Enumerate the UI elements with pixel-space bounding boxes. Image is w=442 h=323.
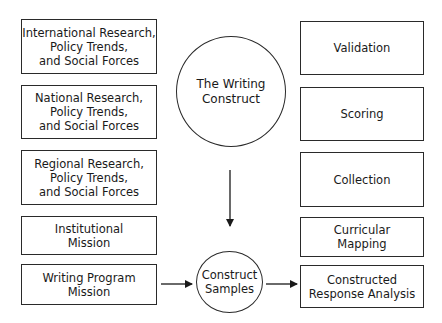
arrows-layer (0, 0, 442, 323)
